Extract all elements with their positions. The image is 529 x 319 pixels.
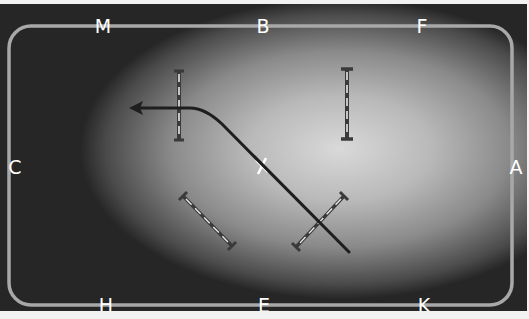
marker-c: C: [8, 156, 21, 178]
jump-2: [341, 69, 353, 139]
marker-e: E: [258, 294, 270, 311]
jump-3: [179, 192, 236, 250]
marker-k: K: [418, 294, 431, 311]
arena-svg: M B F H E K C A: [0, 4, 527, 311]
jump-1: [174, 71, 184, 140]
track-path: [129, 101, 349, 252]
arena-diagram: M B F H E K C A: [0, 4, 527, 311]
marker-b: B: [256, 15, 269, 37]
marker-m: M: [95, 15, 111, 37]
marker-f: F: [417, 15, 428, 37]
marker-h: H: [99, 294, 113, 311]
letter-markers: M B F H E K C A: [8, 15, 522, 311]
marker-a: A: [510, 156, 523, 178]
